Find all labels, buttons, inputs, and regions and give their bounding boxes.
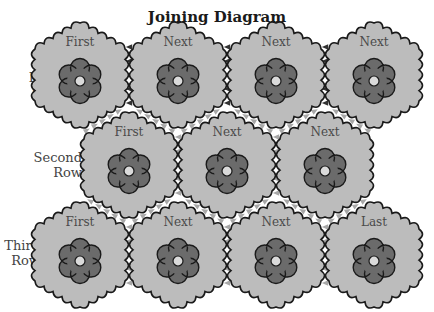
motif: Next xyxy=(277,112,374,218)
motif-label: Next xyxy=(212,125,241,139)
motif-label: Next xyxy=(310,125,339,139)
flower-center xyxy=(271,256,281,266)
join-arrow-icon xyxy=(175,190,181,195)
motif-grid: FirstNextNextNextFirstNextNextFirstNextN… xyxy=(32,22,423,308)
motif-label: First xyxy=(115,125,144,139)
motif: First xyxy=(32,202,129,308)
join-arrow-icon xyxy=(126,44,132,49)
join-arrow-icon xyxy=(224,44,230,49)
join-arrow-icon xyxy=(175,134,181,139)
join-arrow-icon xyxy=(224,224,230,229)
motif-label: Next xyxy=(163,215,192,229)
joining-diagram: FirstNextNextNextFirstNextNextFirstNextN… xyxy=(0,0,434,312)
flower-center xyxy=(222,166,232,176)
join-arrow-icon xyxy=(322,280,328,285)
join-arrow-icon xyxy=(126,224,132,229)
motif-label: First xyxy=(66,215,95,229)
motif-label: Next xyxy=(261,35,290,49)
motif: Next xyxy=(130,22,227,128)
join-arrow-icon xyxy=(273,134,279,139)
motif-label: Next xyxy=(261,215,290,229)
join-arrow-icon xyxy=(224,280,230,285)
motif: Last xyxy=(326,202,423,308)
flower-center xyxy=(124,166,134,176)
motif: Next xyxy=(228,202,325,308)
flower-center xyxy=(271,76,281,86)
flower-center xyxy=(320,166,330,176)
join-arrow-icon xyxy=(322,100,328,105)
motif: Next xyxy=(130,202,227,308)
motif-label: Next xyxy=(163,35,192,49)
join-arrow-icon xyxy=(126,280,132,285)
join-arrow-icon xyxy=(126,100,132,105)
motif: Next xyxy=(228,22,325,128)
motif-label: Next xyxy=(359,35,388,49)
motif: First xyxy=(81,112,178,218)
motif: First xyxy=(32,22,129,128)
join-arrow-icon xyxy=(322,44,328,49)
flower-center xyxy=(173,256,183,266)
motif-label: Last xyxy=(361,215,387,229)
motif: Next xyxy=(326,22,423,128)
motif: Next xyxy=(179,112,276,218)
flower-center xyxy=(369,256,379,266)
join-arrow-icon xyxy=(273,190,279,195)
flower-center xyxy=(75,256,85,266)
join-arrow-icon xyxy=(322,224,328,229)
motif-label: First xyxy=(66,35,95,49)
join-arrow-icon xyxy=(224,100,230,105)
flower-center xyxy=(75,76,85,86)
flower-center xyxy=(369,76,379,86)
flower-center xyxy=(173,76,183,86)
